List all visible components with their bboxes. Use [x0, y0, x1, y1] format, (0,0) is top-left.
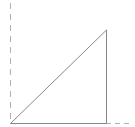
- right-triangle: [11, 30, 107, 124]
- triangle-diagram: [0, 0, 135, 127]
